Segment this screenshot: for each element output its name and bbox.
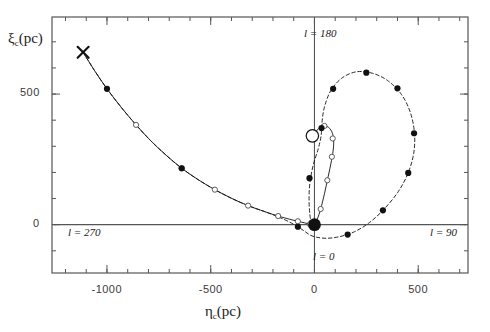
solid-curve <box>83 52 334 224</box>
longitude-label-90: l = 90 <box>430 226 457 238</box>
y-axis-title: ξc(pc) <box>8 30 43 47</box>
axis-frame <box>52 17 468 273</box>
open-circle-datapoint <box>276 213 281 218</box>
filled-circle-datapoint <box>363 70 369 76</box>
open-circle-datapoint <box>329 154 334 159</box>
y-axis-subscript: c <box>15 38 19 48</box>
filled-circle-datapoint <box>104 86 110 92</box>
data-curves <box>83 52 415 238</box>
open-circle-datapoint <box>330 136 335 141</box>
longitude-label-180: l = 180 <box>304 27 336 39</box>
filled-circle-datapoint <box>380 207 386 213</box>
open-circle-datapoint <box>133 122 138 127</box>
filled-circle-datapoint <box>405 170 411 176</box>
x-tick-label: -500 <box>199 283 223 295</box>
filled-circle-datapoint <box>306 175 312 181</box>
longitude-label-270: l = 270 <box>68 226 100 238</box>
filled-circle-datapoint <box>394 85 400 91</box>
y-axis-unit: (pc) <box>19 30 43 46</box>
filled-circle-datapoint <box>330 86 336 92</box>
open-circle-marker <box>306 130 318 142</box>
x-axis-title: ηc(pc) <box>205 303 241 320</box>
open-circle-datapoint <box>318 206 323 211</box>
x-tick-label: 0 <box>311 283 318 295</box>
open-circle-datapoint <box>212 187 217 192</box>
origin-dot <box>308 218 321 231</box>
filled-circle-datapoint <box>318 125 324 131</box>
filled-circle-datapoint <box>411 130 417 136</box>
x-tick-label: 500 <box>408 283 428 295</box>
reference-lines <box>54 19 466 271</box>
longitude-label-0: l = 0 <box>313 250 334 262</box>
special-markers <box>78 47 321 231</box>
x-axis-unit: (pc) <box>217 303 241 319</box>
filled-circle-datapoint <box>345 232 351 238</box>
cross-marker <box>78 47 89 58</box>
y-axis-symbol: ξ <box>8 30 15 46</box>
open-circle-datapoint <box>325 178 330 183</box>
x-axis-subscript: c <box>213 311 217 321</box>
figure-container: -1000 -500 0 500 0 500 ξc(pc) ηc(pc) l =… <box>0 0 490 332</box>
y-tick-label: 0 <box>33 217 40 229</box>
y-tick-label: 500 <box>20 86 40 98</box>
open-circle-datapoint <box>245 203 250 208</box>
filled-circle-datapoint <box>179 165 185 171</box>
data-markers <box>104 70 417 238</box>
filled-circle-datapoint <box>295 224 301 230</box>
x-tick-label: -1000 <box>91 283 122 295</box>
x-axis-symbol: η <box>205 303 213 319</box>
dashed-curve <box>83 52 415 238</box>
open-circle-datapoint <box>295 219 300 224</box>
